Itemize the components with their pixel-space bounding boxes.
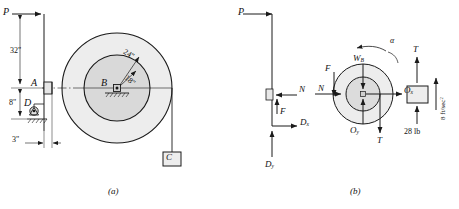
- label-point-A: A: [31, 78, 37, 88]
- fbd-wheel-alpha-arc: [357, 46, 386, 51]
- fbd-bar-shoe: [266, 89, 273, 100]
- label-fbd-block-acceleration: 8 ft/sec2: [440, 97, 447, 120]
- figure-engineering-diagram: P 32" 8" 3" A D B C 24" 18" (a) P N F Dx…: [0, 0, 459, 209]
- diagram-vector-layer: [0, 0, 459, 209]
- fbd-wheel-alpha-tail: [388, 52, 398, 63]
- label-fbd-wheel-pin-Ox: Ox: [404, 86, 413, 96]
- label-force-P-a: P: [3, 7, 9, 17]
- label-fbd-wheel-force-N: N: [318, 84, 324, 93]
- label-fbd-wheel-force-F: F: [325, 64, 331, 73]
- pin-D-center-dot: [33, 110, 36, 113]
- brake-shoe-A: [44, 82, 52, 94]
- label-dim-8: 8": [9, 99, 16, 107]
- pin-D-link: [34, 104, 44, 107]
- label-fbd-bar-force-N: N: [299, 85, 305, 94]
- part-b-bar-fbd-graphics: [243, 14, 297, 157]
- label-fbd-bar-force-F: F: [280, 107, 286, 116]
- label-dim-32: 32": [10, 47, 21, 55]
- fbd-wheel-hub: [361, 92, 366, 97]
- label-dim-3: 3": [12, 136, 19, 144]
- label-fbd-wheel-alpha: α: [390, 37, 394, 45]
- label-fbd-wheel-pin-Oy: Oy: [350, 126, 359, 136]
- hub-B-center-dot: [116, 87, 119, 90]
- part-a-graphics: [11, 14, 181, 166]
- label-fbd-bar-reaction-Dy: Dy: [265, 160, 274, 170]
- label-block-C: C: [166, 153, 172, 162]
- label-fbd-bar-force-P: P: [238, 7, 244, 17]
- label-fbd-block-tension-T: T: [413, 45, 418, 54]
- label-fbd-block-weight: 28 lb: [404, 128, 420, 136]
- caption-b: (b): [350, 186, 361, 196]
- caption-a: (a): [108, 186, 119, 196]
- label-point-B: B: [101, 78, 107, 88]
- label-fbd-wheel-tension-T: T: [377, 136, 382, 145]
- label-point-D: D: [24, 98, 31, 108]
- label-fbd-bar-reaction-Dx: Dx: [300, 118, 309, 128]
- label-fbd-wheel-weight-W: WB: [353, 54, 364, 64]
